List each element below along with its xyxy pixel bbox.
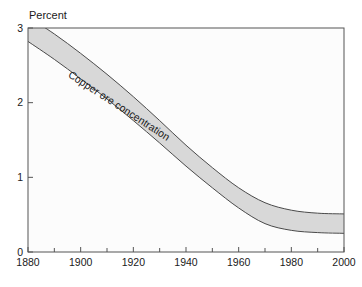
x-tick-label: 1940 [174, 256, 198, 268]
y-tick-label: 2 [17, 96, 23, 108]
x-tick-label: 1960 [227, 256, 251, 268]
chart-figure: 0123 1880190019201940196019802000 Percen… [0, 0, 362, 287]
y-tick-label: 3 [17, 22, 23, 34]
y-tick-label: 1 [17, 171, 23, 183]
x-tick-label: 2000 [332, 256, 356, 268]
y-axis-label: Percent [29, 9, 67, 21]
x-tick-label: 1920 [122, 256, 146, 268]
copper-ore-concentration-chart: 0123 1880190019201940196019802000 Percen… [0, 0, 362, 287]
x-tick-label: 1880 [16, 256, 40, 268]
x-tick-label: 1980 [280, 256, 304, 268]
x-tick-label: 1900 [69, 256, 93, 268]
